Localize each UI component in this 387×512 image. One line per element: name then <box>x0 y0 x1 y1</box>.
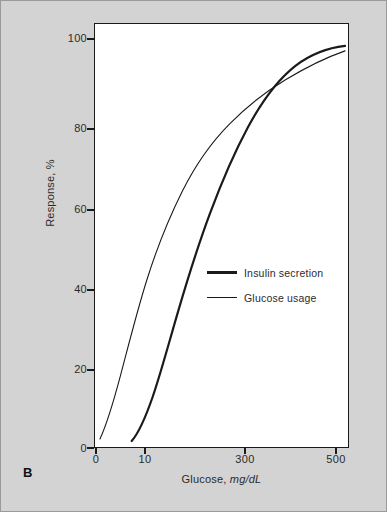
y-tick-label-40: 40 <box>74 284 87 295</box>
plot-area: Insulin secretion Glucose usage <box>94 23 349 448</box>
y-tick-mark-20 <box>87 369 94 371</box>
legend-label-insulin-secretion: Insulin secretion <box>244 267 323 279</box>
panel-label: B <box>23 465 32 480</box>
legend-swatch-insulin-secretion <box>207 271 237 273</box>
x-axis-title: Glucose, mg/dL <box>94 473 349 485</box>
x-tick-label-10: 10 <box>125 453 165 465</box>
series-line-insulin-secretion <box>132 46 345 441</box>
y-axis-title: Response, % <box>44 138 56 248</box>
y-tick-mark-40 <box>87 289 94 291</box>
x-tick-label-500: 500 <box>316 453 356 465</box>
y-tick-label-100: 100 <box>68 33 87 44</box>
legend-label-glucose-usage: Glucose usage <box>244 292 317 304</box>
y-tick-mark-60 <box>87 209 94 211</box>
y-tick-label-80: 80 <box>74 123 87 134</box>
figure-panel-b: Insulin secretion Glucose usage 100 80 6… <box>0 0 387 512</box>
chart-canvas <box>95 24 348 447</box>
y-tick-mark-0 <box>87 447 94 449</box>
y-tick-label-60: 60 <box>74 204 87 215</box>
legend-item-glucose-usage: Glucose usage <box>207 289 323 306</box>
legend-swatch-glucose-usage <box>207 297 237 298</box>
x-axis-title-main: Glucose, <box>182 473 230 485</box>
y-tick-label-20: 20 <box>74 364 87 375</box>
series-line-glucose-usage <box>100 51 345 439</box>
legend: Insulin secretion Glucose usage <box>207 264 323 306</box>
y-axis-ticks: 100 80 60 40 20 0 <box>51 1 87 512</box>
legend-item-insulin-secretion: Insulin secretion <box>207 264 323 281</box>
x-tick-label-0: 0 <box>76 453 116 465</box>
x-tick-label-300: 300 <box>225 453 265 465</box>
y-tick-mark-100 <box>87 38 94 40</box>
x-axis-title-unit: mg/dL <box>230 473 262 485</box>
y-tick-mark-80 <box>87 128 94 130</box>
